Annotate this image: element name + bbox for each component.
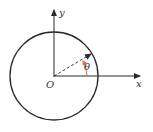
polar-diagram: y x O θ [0,0,153,132]
origin-label: O [46,79,54,90]
y-axis-label: y [58,7,65,18]
angle-label: θ [84,61,90,72]
x-axis-label: x [136,78,142,89]
